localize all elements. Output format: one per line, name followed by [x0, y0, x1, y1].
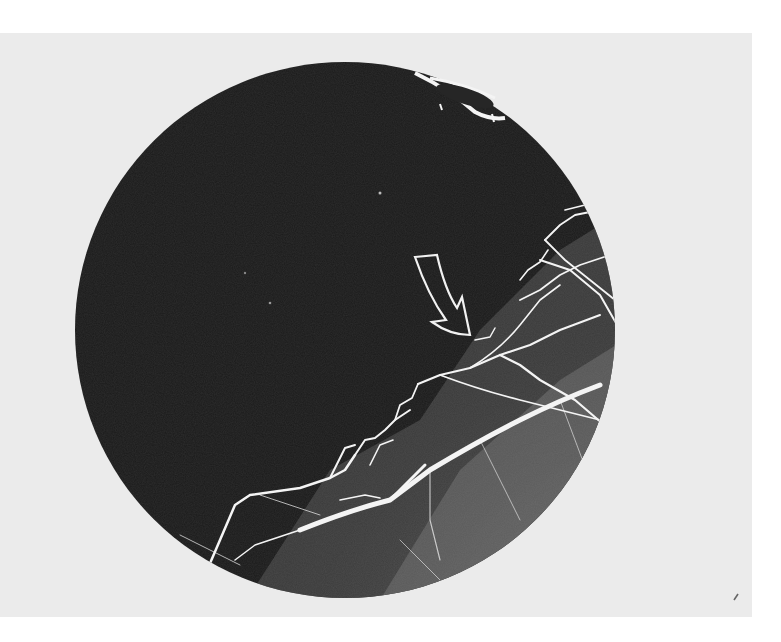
stray-mark	[734, 594, 738, 600]
fundus-image	[0, 33, 752, 617]
angiogram-photo	[0, 33, 752, 617]
fundus-field	[60, 50, 752, 617]
